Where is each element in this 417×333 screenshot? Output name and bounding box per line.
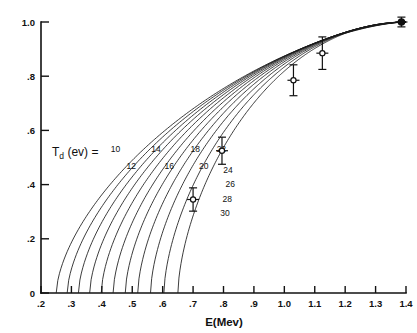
curve-label-10: 10 bbox=[111, 144, 121, 154]
y-tick-label: 0 bbox=[30, 288, 35, 299]
data-marker bbox=[320, 51, 325, 56]
x-tick-label: .4 bbox=[98, 298, 107, 309]
series-label: Td (ev) = bbox=[52, 145, 98, 161]
curve-td-28 bbox=[164, 22, 406, 293]
series-label-tail: (ev) = bbox=[64, 145, 98, 159]
curve-td-30 bbox=[178, 22, 406, 293]
y-tick-label: .2 bbox=[27, 233, 35, 244]
scatter-line-chart: .2.3.4.5.6.7.8.91.01.11.21.31.4 0.2.4.6.… bbox=[0, 0, 417, 333]
x-axis-title: E(Mev) bbox=[205, 316, 243, 328]
y-tick-label: .8 bbox=[27, 71, 35, 82]
x-tick-label: .9 bbox=[250, 298, 258, 309]
curve-td-16 bbox=[90, 22, 406, 293]
curve-label-28: 28 bbox=[222, 194, 232, 204]
curve-label-16: 16 bbox=[165, 161, 175, 171]
data-point bbox=[287, 65, 299, 96]
curve-td-22 bbox=[125, 22, 406, 293]
curve-label-14: 14 bbox=[151, 144, 161, 154]
x-tick-label: .2 bbox=[37, 298, 45, 309]
curve-td-14 bbox=[78, 22, 406, 293]
x-tick-label: 1.0 bbox=[278, 298, 291, 309]
curve-label-20: 20 bbox=[199, 161, 209, 171]
curve-td-12 bbox=[67, 22, 406, 293]
x-tick-label: 1.4 bbox=[399, 298, 413, 309]
x-tick-label: 1.2 bbox=[339, 298, 352, 309]
y-tick-label: .6 bbox=[27, 125, 35, 136]
curve-label-12: 12 bbox=[127, 161, 137, 171]
y-tick-label: .4 bbox=[27, 179, 36, 190]
y-tick-label: 1.0 bbox=[22, 17, 35, 28]
data-marker bbox=[190, 197, 195, 202]
data-marker bbox=[219, 148, 224, 153]
data-point bbox=[187, 188, 199, 211]
data-point bbox=[395, 17, 407, 27]
x-tick-label: .7 bbox=[189, 298, 197, 309]
curve-label-30: 30 bbox=[220, 208, 230, 218]
curve-label-26: 26 bbox=[225, 179, 235, 189]
x-tick-label: 1.1 bbox=[308, 298, 322, 309]
curve-td-18 bbox=[101, 22, 406, 293]
data-point-group bbox=[187, 17, 407, 211]
x-axis-ticks: .2.3.4.5.6.7.8.91.01.11.21.31.4 bbox=[37, 286, 413, 309]
x-tick-label: .5 bbox=[128, 298, 137, 309]
x-tick-label: .8 bbox=[220, 298, 228, 309]
data-marker bbox=[398, 19, 404, 25]
data-marker bbox=[291, 78, 296, 83]
chart-figure: .2.3.4.5.6.7.8.91.01.11.21.31.4 0.2.4.6.… bbox=[0, 0, 417, 333]
y-axis-ticks: 0.2.4.6.81.0 bbox=[22, 17, 49, 299]
curve-label-18: 18 bbox=[190, 144, 200, 154]
x-tick-label: .6 bbox=[159, 298, 167, 309]
curve-group bbox=[56, 22, 406, 293]
curve-label-24: 24 bbox=[223, 165, 233, 175]
x-tick-label: .3 bbox=[67, 298, 75, 309]
x-tick-label: 1.3 bbox=[369, 298, 382, 309]
curve-td-10 bbox=[56, 22, 406, 293]
